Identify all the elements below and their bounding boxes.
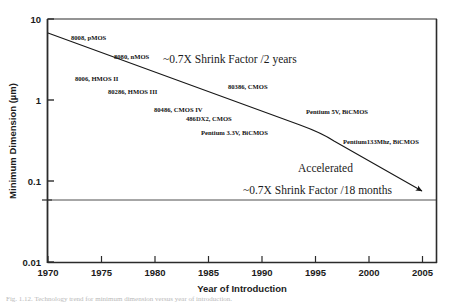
data-point-labels: 8008, pMOS 8080, nMOS 8006, HMOS II 8028… (71, 34, 419, 145)
x-axis-ticks (48, 256, 423, 263)
data-label-pentium-33v: Pentium 3.3V, BiCMOS (201, 129, 268, 136)
data-label-8086: 8006, HMOS II (75, 75, 119, 82)
data-label-pentium-5v: Pentium 5V, BiCMOS (306, 108, 368, 115)
y-tick-label-10: 10 (30, 14, 41, 25)
y-tick-label-0.01: 0.01 (23, 257, 42, 268)
x-tick-label-2000: 2000 (358, 267, 379, 278)
data-label-8008: 8008, pMOS (71, 34, 107, 41)
x-tick-label-1990: 1990 (251, 267, 272, 278)
figure-caption: Fig. 1.12. Technology trend for minimum … (6, 295, 232, 303)
x-tick-label-1995: 1995 (305, 267, 327, 278)
x-tick-label-2005: 2005 (412, 267, 434, 278)
annotation-shrink-18-months: ~0.7X Shrink Factor /18 months (243, 184, 393, 196)
y-axis-title: Minimum Dimension (µm) (7, 83, 18, 199)
x-axis-title: Year of Introduction (197, 283, 287, 294)
annotation-shrink-2-years: ~0.7X Shrink Factor /2 years (163, 53, 297, 66)
y-axis-tick-labels: 10 1 0.1 0.01 (23, 14, 42, 268)
x-tick-label-1970: 1970 (37, 267, 58, 278)
data-label-80386: 80386, CMOS (228, 83, 268, 90)
annotation-accelerated: Accelerated (298, 162, 353, 174)
figure-container: 10 1 0.1 0.01 1970 1975 1980 1985 1990 1… (0, 0, 468, 304)
x-tick-label-1980: 1980 (144, 267, 165, 278)
x-tick-label-1975: 1975 (91, 267, 113, 278)
y-tick-label-0.1: 0.1 (28, 176, 42, 187)
data-label-pentium-133: Pentium133Mhz, BiCMOS (343, 138, 419, 145)
data-label-486dx2: 486DX2, CMOS (186, 115, 232, 122)
technology-trend-chart: 10 1 0.1 0.01 1970 1975 1980 1985 1990 1… (0, 0, 468, 304)
data-label-80486: 80486, CMOS IV (154, 106, 203, 113)
data-label-80286: 80286, HMOS III (108, 88, 158, 95)
chart-annotations: ~0.7X Shrink Factor /2 years Accelerated… (163, 53, 393, 196)
x-axis-tick-labels: 1970 1975 1980 1985 1990 1995 2000 2005 (37, 267, 433, 278)
y-tick-label-1: 1 (36, 95, 42, 106)
x-tick-label-1985: 1985 (198, 267, 220, 278)
data-label-8080: 8080, nMOS (114, 53, 150, 60)
